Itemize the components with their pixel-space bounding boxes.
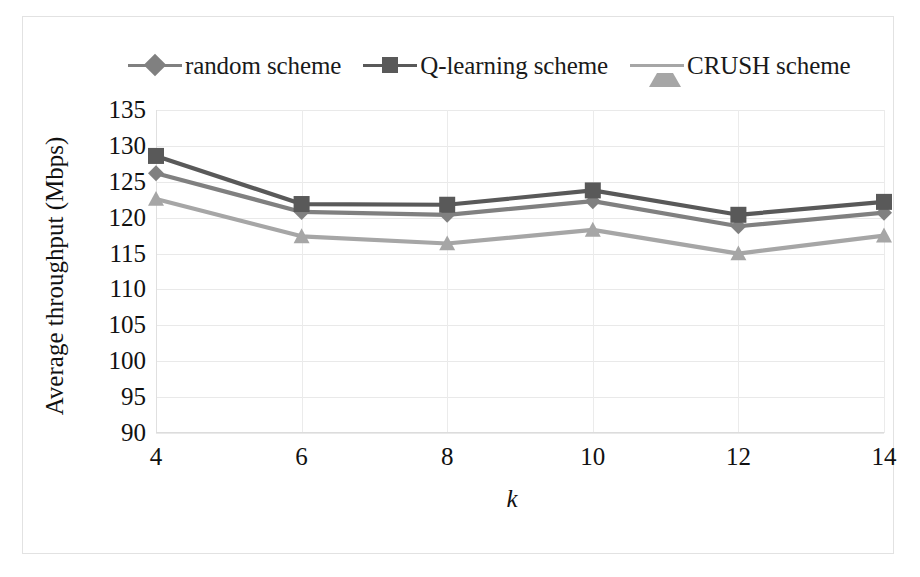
legend-item-q-learning-scheme[interactable]: Q-learning scheme: [363, 53, 608, 78]
y-axis-tick-label: 100: [84, 348, 146, 373]
legend-key-diamond: [128, 55, 182, 75]
chart-legend: random scheme Q-learning scheme CRUSH sc…: [128, 48, 828, 82]
y-axis-tick-label: 95: [84, 384, 146, 409]
x-axis-tick-label: 6: [267, 443, 337, 470]
data-point-marker: [876, 194, 892, 210]
y-axis-tick-label: 105: [84, 312, 146, 337]
series-line: [156, 173, 884, 226]
series-q-learning-scheme: [148, 148, 892, 223]
x-axis-tick-labels: 468101214: [156, 443, 884, 477]
x-axis-tick-label: 8: [412, 443, 482, 470]
legend-key-square: [363, 55, 417, 75]
legend-label-random-scheme: random scheme: [185, 53, 341, 78]
legend-key-triangle: [630, 55, 684, 75]
x-axis-tick-label: 4: [121, 443, 191, 470]
y-axis-tick-label: 120: [84, 205, 146, 230]
y-axis-tick-label: 115: [84, 241, 146, 266]
legend-label-crush-scheme: CRUSH scheme: [687, 53, 850, 78]
series-plot: [156, 110, 884, 433]
chart-figure: random scheme Q-learning scheme CRUSH sc…: [0, 0, 920, 577]
legend-item-random-scheme[interactable]: random scheme: [128, 53, 341, 78]
x-axis-tick-label: 14: [849, 443, 919, 470]
plot-area: [156, 110, 884, 433]
y-axis-title: Average throughput (Mbps): [41, 111, 69, 441]
data-point-marker: [730, 207, 746, 223]
gridline-vertical: [884, 110, 885, 433]
data-point-marker: [439, 197, 455, 213]
data-point-marker: [294, 196, 310, 212]
x-axis-title: k: [140, 485, 884, 513]
y-axis-tick-label: 135: [84, 97, 146, 122]
legend-label-q-learning-scheme: Q-learning scheme: [420, 53, 608, 78]
data-point-marker: [148, 148, 164, 164]
legend-item-crush-scheme[interactable]: CRUSH scheme: [630, 53, 850, 78]
x-axis-tick-label: 12: [703, 443, 773, 470]
data-point-marker: [585, 182, 601, 198]
y-axis-tick-label: 110: [84, 276, 146, 301]
y-axis-tick-label: 130: [84, 133, 146, 158]
gridline-horizontal: [156, 433, 884, 434]
y-axis-tick-label: 125: [84, 169, 146, 194]
y-axis-tick-label: 90: [84, 420, 146, 445]
x-axis-tick-label: 10: [558, 443, 628, 470]
y-axis-tick-labels: 1351301251201151101051009590: [84, 110, 146, 433]
